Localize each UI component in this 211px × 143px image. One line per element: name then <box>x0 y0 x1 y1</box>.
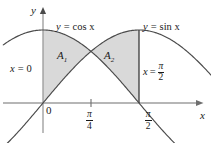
sine-label-lhs: y <box>143 21 148 32</box>
left-boundary-value: 0 <box>27 63 32 74</box>
cosine-label-eq: = <box>61 21 73 32</box>
region-label-a2: A2 <box>104 50 114 61</box>
right-boundary-numerator: π <box>158 62 165 73</box>
tick-label-pi-over-2: π 2 <box>145 110 152 131</box>
region-a1-subscript: 1 <box>64 56 68 64</box>
cosine-curve-label: y=cos x <box>56 22 94 33</box>
shaded-region-a1 <box>43 30 91 103</box>
y-axis-arrowhead <box>40 7 46 14</box>
tick-label-pi-over-4: π 4 <box>86 110 93 131</box>
cosine-label-lhs: y <box>56 21 61 32</box>
origin-label: 0 <box>46 105 52 116</box>
x-axis-arrowhead <box>196 100 204 106</box>
cosine-label-rhs: cos x <box>73 21 95 32</box>
x-axis-label: x <box>200 110 205 121</box>
sine-curve-label: y=sin x <box>143 22 180 33</box>
right-boundary-eq: = <box>148 67 158 78</box>
sine-label-rhs: sin x <box>160 21 180 32</box>
region-label-a1: A1 <box>57 50 67 61</box>
region-a2-subscript: 2 <box>111 56 115 64</box>
left-boundary-eq: = <box>15 63 27 74</box>
shaded-region-a2 <box>91 30 139 103</box>
tick-pi2-denominator: 2 <box>146 121 151 131</box>
left-boundary-var: x <box>10 63 15 74</box>
region-a1-base: A <box>57 49 64 61</box>
right-boundary-label: x= π 2 <box>143 62 164 83</box>
left-boundary-label: x=0 <box>10 64 32 75</box>
region-a2-base: A <box>104 49 111 61</box>
tick-pi4-denominator: 4 <box>87 121 92 131</box>
right-boundary-fraction: π 2 <box>158 62 165 83</box>
tick-pi2-numerator: π <box>145 110 152 121</box>
y-axis-label: y <box>31 5 36 16</box>
sine-label-eq: = <box>148 21 160 32</box>
tick-pi4-numerator: π <box>86 110 93 121</box>
right-boundary-denominator: 2 <box>159 73 164 83</box>
figure-container: y x 0 y=cos x y=sin x x=0 x= π 2 A1 A2 π… <box>0 0 211 143</box>
